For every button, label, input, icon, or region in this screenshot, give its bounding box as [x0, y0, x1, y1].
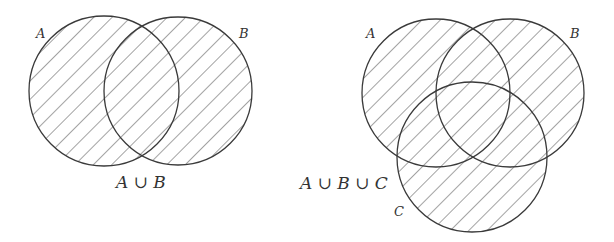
set-c-label: C [394, 204, 404, 219]
set-a-label: A [365, 26, 375, 41]
venn-union-three: A B C A ∪ B ∪ C [298, 0, 614, 242]
venn-union-two: A B A ∪ B [0, 0, 300, 242]
expression-label: A ∪ B [114, 172, 166, 192]
union-hatch-shading [300, 0, 614, 242]
expression-label: A ∪ B ∪ C [298, 173, 388, 193]
set-b-label: B [569, 26, 580, 41]
set-a-label: A [35, 26, 45, 41]
set-b-label: B [238, 26, 249, 41]
venn-diagrams: A B A ∪ B A B C A ∪ B ∪ C [0, 0, 614, 242]
